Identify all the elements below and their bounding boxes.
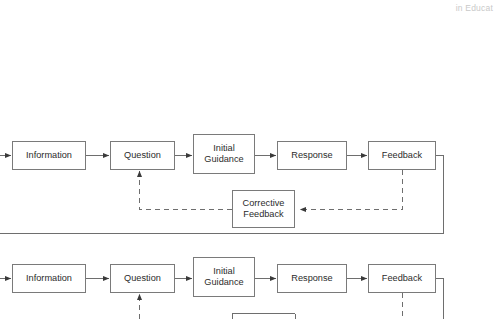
edge-feedback-loopback-2: [436, 279, 444, 319]
node-initial-guidance-2[interactable]: Initial Guidance: [193, 257, 255, 297]
node-feedback-1[interactable]: Feedback: [368, 141, 436, 170]
edge-feedback-corrective-1: [300, 170, 402, 210]
node-feedback-2[interactable]: Feedback: [368, 264, 436, 293]
node-question-2[interactable]: Question: [110, 264, 175, 293]
node-information-1[interactable]: Information: [12, 141, 86, 170]
node-corrective-feedback-1[interactable]: Corrective Feedback: [232, 190, 295, 228]
node-response-1[interactable]: Response: [277, 141, 347, 170]
document-page: in Educat: [0, 0, 497, 319]
edge-corrective-question-1: [140, 171, 233, 210]
node-question-1[interactable]: Question: [110, 141, 175, 170]
corrective-feedback-2-partial-border: [232, 314, 295, 319]
node-information-2[interactable]: Information: [12, 264, 86, 293]
node-response-2[interactable]: Response: [277, 264, 347, 293]
node-initial-guidance-1[interactable]: Initial Guidance: [193, 134, 255, 174]
